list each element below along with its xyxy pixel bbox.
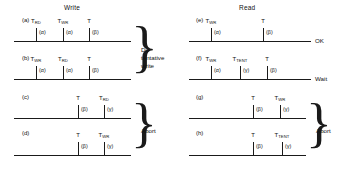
bracket-read-gh: } xyxy=(306,96,332,150)
tick-label-b-0: TWR xyxy=(31,56,42,62)
axis-line-c xyxy=(14,118,131,119)
outcome-label-e: OK xyxy=(315,37,324,44)
tick-annotation-d-0: (β) xyxy=(81,144,88,149)
axis-line-b xyxy=(14,79,131,80)
tick-annotation-g-0: (β) xyxy=(256,107,263,112)
bracket-label-write-cd: Abort xyxy=(141,127,156,135)
outcome-label-f: Wait xyxy=(315,75,327,82)
axis-line-g xyxy=(189,118,306,119)
tick-sub: TENT xyxy=(236,58,247,63)
tick-annotation-h-1: (γ) xyxy=(285,144,291,149)
row-label-f: (f) xyxy=(196,55,202,61)
axis-line-a xyxy=(14,41,131,42)
tick-sub: WR xyxy=(209,20,216,25)
tick-mark-a-1 xyxy=(63,28,64,41)
tick-name: T xyxy=(87,18,91,24)
tick-annotation-f-2: (β) xyxy=(270,68,277,73)
tick-sub: WR xyxy=(34,58,41,63)
tick-annotation-h-0: (β) xyxy=(256,144,263,149)
row-label-e: (e) xyxy=(196,17,203,23)
tick-label-a-1: TWR xyxy=(58,18,69,24)
tick-annotation-e-1: (β) xyxy=(266,30,273,35)
tick-annotation-a-1: (α) xyxy=(66,30,73,35)
tick-name: T xyxy=(76,132,80,138)
axis-line-e xyxy=(189,41,311,42)
tick-label-d-0: T xyxy=(76,132,80,138)
tick-mark-g-1 xyxy=(280,105,281,118)
tick-annotation-c-0: (β) xyxy=(81,107,88,112)
tick-label-b-2: T xyxy=(87,56,91,62)
bracket-label-write-ab: Do tentative write xyxy=(141,46,164,70)
tick-mark-c-1 xyxy=(104,105,105,118)
tick-label-f-2: T xyxy=(265,56,269,62)
tick-mark-b-0 xyxy=(36,66,37,79)
tick-mark-f-1 xyxy=(240,66,241,79)
tick-annotation-b-1: (α) xyxy=(66,68,73,73)
tick-mark-g-0 xyxy=(253,105,254,118)
tick-name: T xyxy=(87,56,91,62)
tick-name: T xyxy=(251,132,255,138)
tick-sub: WR xyxy=(61,20,68,25)
tick-name: T xyxy=(76,95,80,101)
tick-mark-e-0 xyxy=(211,28,212,41)
tick-sub: WR xyxy=(209,58,216,63)
tick-label-b-1: TRD xyxy=(58,56,68,62)
tick-mark-a-0 xyxy=(36,28,37,41)
tick-annotation-d-1: (γ) xyxy=(107,144,113,149)
tick-name: T xyxy=(261,18,265,24)
tick-sub: WR xyxy=(102,134,109,139)
row-label-a: (a) xyxy=(22,17,29,23)
tick-mark-h-1 xyxy=(282,142,283,155)
bracket-label-read-gh: Abort xyxy=(316,127,331,135)
tick-mark-f-2 xyxy=(267,66,268,79)
tick-label-g-1: TWR xyxy=(275,95,286,101)
row-label-d: (d) xyxy=(22,130,29,136)
tick-label-h-0: T xyxy=(251,132,255,138)
tick-label-f-0: TWR xyxy=(206,56,217,62)
axis-line-h xyxy=(189,155,306,156)
tick-sub: RD xyxy=(62,58,68,63)
column-title-write: Write xyxy=(64,4,80,11)
tick-label-g-0: T xyxy=(251,95,255,101)
tick-sub: TENT xyxy=(278,134,289,139)
tick-annotation-a-2: (β) xyxy=(92,30,99,35)
tick-annotation-c-1: (γ) xyxy=(107,107,113,112)
axis-line-d xyxy=(14,155,131,156)
tick-annotation-f-1: (γ) xyxy=(243,68,249,73)
row-label-c: (c) xyxy=(22,94,29,100)
tick-name: T xyxy=(251,95,255,101)
tick-annotation-g-1: (γ) xyxy=(283,107,289,112)
tick-annotation-a-0: (α) xyxy=(39,30,46,35)
tick-label-a-0: TRD xyxy=(31,18,41,24)
tick-label-d-1: TWR xyxy=(99,132,110,138)
tick-label-c-0: T xyxy=(76,95,80,101)
tick-mark-a-2 xyxy=(89,28,90,41)
tick-mark-b-1 xyxy=(63,66,64,79)
tick-annotation-b-0: (α) xyxy=(39,68,46,73)
tick-sub: WR xyxy=(278,97,285,102)
tick-mark-c-0 xyxy=(78,105,79,118)
tick-mark-f-0 xyxy=(211,66,212,79)
bracket-write-cd: } xyxy=(131,96,157,150)
tick-label-c-1: TRD xyxy=(99,95,109,101)
tick-mark-d-0 xyxy=(78,142,79,155)
row-label-g: (g) xyxy=(196,94,203,100)
axis-line-f xyxy=(189,79,311,80)
tick-label-e-1: T xyxy=(261,18,265,24)
row-label-h: (h) xyxy=(196,130,203,136)
timeline-diagram: Write Read (a) TRD TWR T (α) (α) (β) (b)… xyxy=(0,0,348,169)
tick-mark-d-1 xyxy=(104,142,105,155)
column-title-read: Read xyxy=(239,4,255,11)
tick-name: T xyxy=(265,56,269,62)
tick-label-e-0: TWR xyxy=(206,18,217,24)
tick-mark-h-0 xyxy=(253,142,254,155)
tick-annotation-f-0: (α) xyxy=(214,68,221,73)
tick-mark-e-1 xyxy=(263,28,264,41)
tick-annotation-b-2: (β) xyxy=(92,68,99,73)
tick-mark-b-2 xyxy=(89,66,90,79)
tick-sub: RD xyxy=(35,20,41,25)
tick-label-f-1: TTENT xyxy=(232,56,247,62)
tick-annotation-e-0: (α) xyxy=(214,30,221,35)
row-label-b: (b) xyxy=(22,55,29,61)
tick-sub: RD xyxy=(103,97,109,102)
